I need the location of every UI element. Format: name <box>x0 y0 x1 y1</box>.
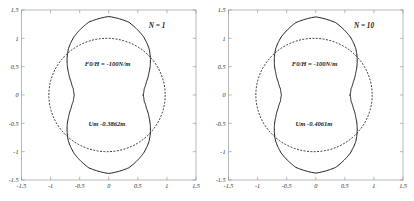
y-tick-label: 1.5 <box>11 6 19 13</box>
y-tick-label: -1 <box>220 148 225 155</box>
displacement-annotation: Um -0.3862m <box>89 120 126 127</box>
x-tick-label: 1.5 <box>399 182 407 189</box>
y-tick-label: 1 <box>15 35 18 42</box>
y-tick-label: -0.5 <box>216 120 226 127</box>
deformed-shape-curve <box>67 17 150 174</box>
x-tick-label: -1 <box>255 182 260 189</box>
x-tick-label: 1.5 <box>192 182 200 189</box>
x-tick-label: -1 <box>48 182 53 189</box>
x-tick-label: 0 <box>107 182 111 189</box>
plot-panel-left: -1.5-1-0.500.511.51.510.50-0.5-1-1.5N = … <box>0 0 207 201</box>
x-tick-label: 0 <box>314 182 318 189</box>
y-tick-label: 0.5 <box>218 63 226 70</box>
plot-panel-right: -1.5-1-0.500.511.51.510.50-0.5-1-1.5N = … <box>207 0 414 201</box>
force-annotation: F0/H = -100N/m <box>85 60 131 67</box>
x-tick-label: 1 <box>372 182 375 189</box>
y-tick-label: 0 <box>222 91 226 98</box>
x-tick-label: -0.5 <box>75 182 85 189</box>
y-tick-label: -1 <box>13 148 18 155</box>
reference-circle-curve <box>49 38 165 151</box>
plot-left-canvas: -1.5-1-0.500.511.51.510.50-0.5-1-1.5N = … <box>0 0 207 201</box>
x-tick-label: -1.5 <box>224 182 234 189</box>
case-label: N = 1 <box>148 22 165 30</box>
reference-circle-curve <box>256 38 372 151</box>
deformed-shape-curve <box>274 17 357 173</box>
x-tick-label: 1 <box>165 182 168 189</box>
x-tick-label: 0.5 <box>341 182 349 189</box>
y-tick-label: 0 <box>15 91 19 98</box>
plot-right-canvas: -1.5-1-0.500.511.51.510.50-0.5-1-1.5N = … <box>207 0 414 201</box>
x-tick-label: -1.5 <box>17 182 27 189</box>
y-tick-label: -1.5 <box>216 176 226 183</box>
y-tick-label: -1.5 <box>9 176 19 183</box>
y-tick-label: 1.5 <box>218 6 226 13</box>
y-tick-label: 0.5 <box>11 63 19 70</box>
figure-container: -1.5-1-0.500.511.51.510.50-0.5-1-1.5N = … <box>0 0 414 201</box>
y-tick-label: 1 <box>222 35 225 42</box>
displacement-annotation: Um -0.4061m <box>296 120 333 127</box>
x-tick-label: -0.5 <box>282 182 292 189</box>
case-label: N = 10 <box>353 22 374 30</box>
force-annotation: F0/H = -100N/m <box>292 60 338 67</box>
y-tick-label: -0.5 <box>9 120 19 127</box>
x-tick-label: 0.5 <box>134 182 142 189</box>
